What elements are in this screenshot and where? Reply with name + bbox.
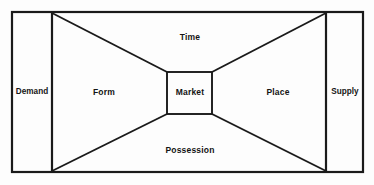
diagonal-top-left	[52, 13, 167, 72]
label-time: Time	[180, 33, 201, 42]
label-demand: Demand	[16, 88, 48, 96]
diagonal-top-right	[212, 13, 326, 72]
diagonal-bottom-right	[212, 114, 326, 171]
label-place: Place	[266, 88, 289, 97]
label-market: Market	[176, 88, 205, 97]
label-form: Form	[93, 88, 115, 97]
label-possession: Possession	[165, 146, 214, 155]
diagonal-bottom-left	[52, 114, 167, 171]
label-supply: Supply	[331, 88, 358, 96]
bowtie-diagram: Demand Form Time Market Possession Place…	[0, 0, 374, 185]
